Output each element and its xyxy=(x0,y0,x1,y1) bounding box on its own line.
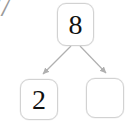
part-box-left[interactable]: 2 xyxy=(20,79,58,120)
whole-box-value: 8 xyxy=(69,11,83,39)
arrow-whole-to-left-part xyxy=(43,46,71,74)
arrow-whole-to-right-part xyxy=(80,46,106,73)
part-box-right[interactable] xyxy=(86,78,124,118)
part-box-left-value: 2 xyxy=(32,86,46,114)
whole-box[interactable]: 8 xyxy=(57,3,94,46)
number-bond-canvas: 7 8 2 xyxy=(0,0,138,124)
